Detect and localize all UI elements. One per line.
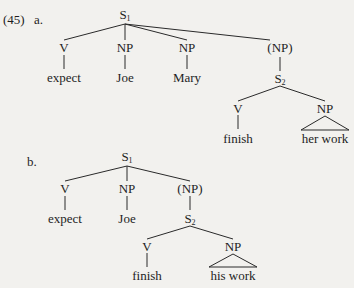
- tree-a-leaf-joe: Joe: [116, 71, 133, 84]
- tree-b-node-np-his-work: NP: [225, 240, 242, 253]
- tree-b-node-np-joe: NP: [119, 182, 136, 195]
- tree-a-leaf-finish: finish: [223, 132, 253, 145]
- tree-a-node-s2: S2: [274, 72, 285, 89]
- example-number: (45): [3, 13, 25, 26]
- tree-b-leaf-joe: Joe: [118, 212, 135, 225]
- tree-a-node-np-mary: NP: [179, 41, 196, 54]
- tree-b-leaf-expect: expect: [48, 212, 82, 225]
- tree-a-node-np-joe: NP: [117, 41, 134, 54]
- tree-b-leaf-finish: finish: [132, 269, 162, 282]
- tree-a-node-v2: V: [233, 102, 242, 115]
- tree-a-leaf-mary: Mary: [173, 71, 201, 84]
- example-a-label: a.: [34, 13, 43, 26]
- tree-a-root-s1: S1: [119, 8, 130, 25]
- tree-a-node-np-her-work: NP: [317, 102, 334, 115]
- tree-a-leaf-expect: expect: [47, 71, 81, 84]
- example-b-label: b.: [27, 155, 37, 168]
- tree-b-root-s1: S1: [121, 150, 132, 167]
- tree-b-node-v: V: [60, 182, 69, 195]
- tree-a-node-v: V: [59, 41, 68, 54]
- tree-b-node-v2: V: [142, 240, 151, 253]
- tree-a-leaf-her-work: her work: [302, 132, 349, 145]
- tree-b-node-optional-np: (NP): [177, 182, 202, 195]
- tree-a-node-optional-np: (NP): [267, 41, 292, 54]
- tree-b-leaf-his-work: his work: [210, 269, 255, 282]
- tree-b-node-s2: S2: [184, 212, 195, 229]
